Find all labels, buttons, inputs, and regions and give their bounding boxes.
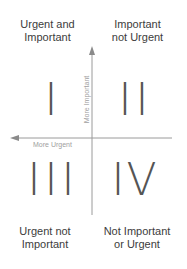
quadrant-1-numeral: I [28, 78, 78, 122]
vertical-axis-label: More Important [83, 70, 90, 130]
quadrant-1-label: Urgent and Important [10, 18, 85, 44]
quadrant-1-label-line1: Urgent and [10, 18, 85, 31]
left-arrow-icon [10, 135, 19, 141]
quadrant-2-label: Important not Urgent [100, 18, 175, 44]
quadrant-2-numeral: II [108, 78, 163, 122]
quadrant-4-numeral: IV [105, 158, 165, 202]
quadrant-3-label: Urgent not Important [10, 225, 80, 251]
quadrant-2-label-line1: Important [100, 18, 175, 31]
quadrant-3-numeral: III [22, 158, 84, 202]
quadrant-3-label-line1: Urgent not [10, 225, 80, 238]
horizontal-axis-label: More Urgent [33, 141, 72, 148]
quadrant-4-label: Not Important or Urgent [97, 225, 177, 251]
quadrant-2-label-line2: not Urgent [100, 31, 175, 44]
quadrant-3-label-line2: Important [10, 238, 80, 251]
quadrant-4-label-line2: or Urgent [97, 238, 177, 251]
quadrant-1-label-line2: Important [10, 31, 85, 44]
up-arrow-icon [89, 46, 95, 55]
quadrant-4-label-line1: Not Important [97, 225, 177, 238]
